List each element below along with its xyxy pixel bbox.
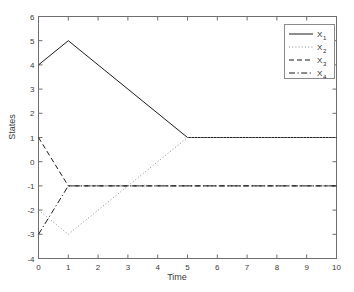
- x-tick-label: 3: [126, 263, 131, 272]
- x-tick-label: 2: [96, 263, 101, 272]
- chart-legend: X1X2X3X4: [285, 25, 335, 81]
- y-tick-label: 0: [30, 158, 35, 167]
- x-tick-label: 5: [185, 263, 190, 272]
- x-tick-label: 1: [66, 263, 71, 272]
- y-tick-label: -2: [27, 206, 35, 215]
- y-tick-label: 4: [30, 61, 35, 70]
- x-axis-label: Time: [0, 272, 354, 282]
- y-axis-label: States: [7, 97, 17, 157]
- x-tick-label: 0: [36, 263, 41, 272]
- y-tick-label: 3: [30, 85, 35, 94]
- line-chart: 012345678910 -4-3-2-10123456 X1X2X3X4: [0, 0, 354, 292]
- y-axis-tick-labels: -4-3-2-10123456: [27, 13, 35, 264]
- x-tick-label: 4: [155, 263, 160, 272]
- y-tick-label: -4: [27, 255, 35, 264]
- x-tick-label: 6: [215, 263, 220, 272]
- x-axis-tick-labels: 012345678910: [36, 263, 341, 272]
- figure-canvas: 012345678910 -4-3-2-10123456 X1X2X3X4 Ti…: [0, 0, 354, 292]
- y-tick-label: 6: [30, 13, 35, 22]
- x-tick-label: 10: [332, 263, 341, 272]
- y-tick-label: 1: [30, 134, 35, 143]
- y-tick-label: 2: [30, 109, 35, 118]
- legend-box: [285, 25, 335, 79]
- x-tick-label: 8: [275, 263, 280, 272]
- y-tick-label: 5: [30, 37, 35, 46]
- x-tick-label: 7: [245, 263, 250, 272]
- y-tick-label: -1: [27, 182, 35, 191]
- y-tick-label: -3: [27, 230, 35, 239]
- x-tick-label: 9: [304, 263, 309, 272]
